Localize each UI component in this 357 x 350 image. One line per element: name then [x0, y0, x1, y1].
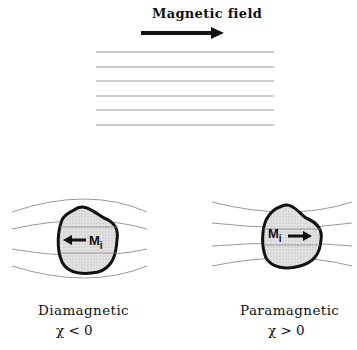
uniform-field-lines: [96, 52, 274, 125]
field-direction-arrow-icon: [141, 27, 224, 39]
paramagnetic-label: Paramagnetic: [240, 302, 339, 318]
diamagnetic-label: Diamagnetic: [38, 302, 129, 318]
paramagnetic-susceptibility: χ > 0: [268, 322, 305, 338]
diamagnetic-susceptibility: χ < 0: [56, 322, 93, 338]
diagram-canvas: Mi Mi: [0, 0, 357, 350]
